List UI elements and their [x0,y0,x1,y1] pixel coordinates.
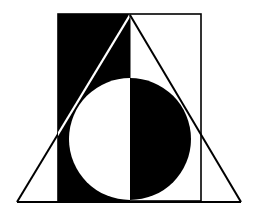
circle-right-black-half [130,78,191,200]
emblem-figure [0,0,256,218]
